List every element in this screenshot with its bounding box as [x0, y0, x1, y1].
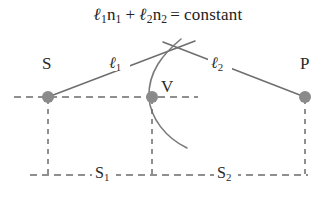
point-marker-v: [146, 91, 158, 103]
ray-label-l2-symbol: ℓ: [211, 54, 218, 71]
baseline-label-s2-subscript: 2: [226, 171, 231, 183]
baseline-label-s1-subscript: 1: [104, 171, 109, 183]
ray-label-l1: ℓ1: [109, 55, 121, 73]
point-label-s: S: [42, 55, 51, 72]
ray-label-l1-symbol: ℓ: [109, 54, 116, 71]
baseline-label-s1-symbol: S: [95, 164, 104, 181]
point-label-p: P: [300, 55, 309, 72]
point-marker-s: [42, 91, 54, 103]
ray-l2-line: [163, 42, 305, 97]
ray-label-l2: ℓ2: [211, 55, 223, 73]
baseline-label-s2-symbol: S: [217, 164, 226, 181]
ray-label-l1-subscript: 1: [116, 61, 121, 73]
baseline-label-s2: S2: [217, 165, 231, 183]
point-label-v: V: [161, 78, 173, 95]
baseline-label-s1: S1: [95, 165, 109, 183]
point-marker-p: [299, 91, 311, 103]
optical-path-diagram: ℓ1n1+ℓ2n2=constant S V P ℓ1 ℓ2: [0, 0, 336, 199]
ray-label-l2-subscript: 2: [218, 61, 223, 73]
diagram-canvas: [0, 0, 336, 199]
